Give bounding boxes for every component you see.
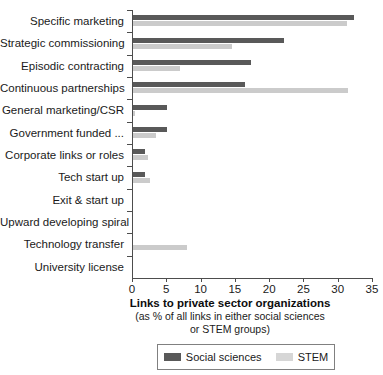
y-axis-tick: [127, 144, 132, 145]
bar-stem[interactable]: [133, 133, 156, 138]
chart-category-rows: Specific marketingStrategic commissionin…: [0, 0, 383, 278]
bar-social-sciences[interactable]: [133, 38, 284, 43]
bar-social-sciences[interactable]: [133, 172, 145, 177]
x-axis-tick-label: 35: [357, 283, 383, 295]
x-axis-subtitle-line-1: (as % of all links in either social scie…: [80, 310, 380, 323]
legend-swatch-social-sciences: [164, 353, 181, 361]
legend-label-stem: STEM: [298, 351, 329, 363]
chart-category-row: Upward developing spiral: [0, 211, 383, 233]
y-axis-tick: [127, 77, 132, 78]
chart-category-row: Exit & start up: [0, 189, 383, 211]
x-axis-tick: [235, 278, 236, 282]
y-axis-tick: [127, 32, 132, 33]
x-axis-tick: [372, 278, 373, 282]
x-axis-tick: [132, 278, 133, 282]
legend-label-social-sciences: Social sciences: [186, 351, 262, 363]
x-axis-tick-label: 0: [117, 283, 147, 295]
y-axis-label: Tech start up: [0, 166, 124, 188]
legend-swatch-stem: [276, 353, 293, 361]
legend-item-stem[interactable]: STEM: [276, 351, 329, 363]
x-axis-tick-label: 30: [323, 283, 353, 295]
y-axis-label: Strategic commissioning: [0, 32, 124, 54]
y-axis-tick: [127, 233, 132, 234]
x-axis-tick-label: 10: [186, 283, 216, 295]
bar-stem[interactable]: [133, 111, 135, 116]
x-axis-ticks: 05101520253035: [0, 278, 383, 298]
x-axis-subtitle-line-2: or STEM groups): [80, 323, 380, 336]
x-axis-title: Links to private sector organizations: [80, 296, 380, 310]
y-axis-tick: [127, 55, 132, 56]
chart-category-row: Specific marketing: [0, 10, 383, 32]
bar-chart: Specific marketingStrategic commissionin…: [0, 0, 383, 375]
bar-stem[interactable]: [133, 245, 187, 250]
y-axis-label: Upward developing spiral: [0, 211, 124, 233]
y-axis-tick: [127, 189, 132, 190]
chart-category-row: Corporate links or roles: [0, 144, 383, 166]
x-axis-tick: [269, 278, 270, 282]
y-axis-label: Corporate links or roles: [0, 144, 124, 166]
x-axis-tick: [303, 278, 304, 282]
chart-category-row: Episodic contracting: [0, 55, 383, 77]
bar-stem[interactable]: [133, 66, 180, 71]
chart-category-row: Technology transfer: [0, 233, 383, 255]
y-axis-label: Government funded ...: [0, 122, 124, 144]
chart-category-row: Continuous partnerships: [0, 77, 383, 99]
chart-category-row: Strategic commissioning: [0, 32, 383, 54]
y-axis-label: Continuous partnerships: [0, 77, 124, 99]
bar-social-sciences[interactable]: [133, 60, 251, 65]
y-axis-label: Specific marketing: [0, 10, 124, 32]
bar-stem[interactable]: [133, 178, 150, 183]
y-axis-label: University license: [0, 256, 124, 278]
bar-stem[interactable]: [133, 21, 347, 26]
chart-category-row: Government funded ...: [0, 122, 383, 144]
chart-category-row: General marketing/CSR: [0, 99, 383, 121]
y-axis-tick: [127, 166, 132, 167]
chart-category-row: University license: [0, 256, 383, 278]
bar-social-sciences[interactable]: [133, 15, 354, 20]
y-axis-label: Technology transfer: [0, 233, 124, 255]
x-axis-tick: [166, 278, 167, 282]
chart-category-row: Tech start up: [0, 166, 383, 188]
x-axis-tick-label: 5: [151, 283, 181, 295]
y-axis-tick: [127, 256, 132, 257]
y-axis-tick: [127, 10, 132, 11]
bar-stem[interactable]: [133, 155, 148, 160]
x-axis-tick-label: 15: [220, 283, 250, 295]
y-axis-tick: [127, 99, 132, 100]
y-axis-label: Exit & start up: [0, 189, 124, 211]
bar-social-sciences[interactable]: [133, 127, 167, 132]
y-axis-tick: [127, 122, 132, 123]
x-axis-tick: [201, 278, 202, 282]
bar-social-sciences[interactable]: [133, 149, 145, 154]
x-axis-title-block: Links to private sector organizations (a…: [80, 296, 380, 336]
bar-social-sciences[interactable]: [133, 82, 245, 87]
x-axis-tick-label: 20: [254, 283, 284, 295]
x-axis-tick: [338, 278, 339, 282]
bar-social-sciences[interactable]: [133, 105, 167, 110]
bar-stem[interactable]: [133, 88, 348, 93]
x-axis-tick-label: 25: [288, 283, 318, 295]
legend-item-social-sciences[interactable]: Social sciences: [164, 351, 262, 363]
y-axis-label: General marketing/CSR: [0, 99, 124, 121]
chart-legend: Social sciences STEM: [157, 344, 335, 370]
y-axis-tick: [127, 211, 132, 212]
y-axis-label: Episodic contracting: [0, 55, 124, 77]
bar-stem[interactable]: [133, 44, 232, 49]
